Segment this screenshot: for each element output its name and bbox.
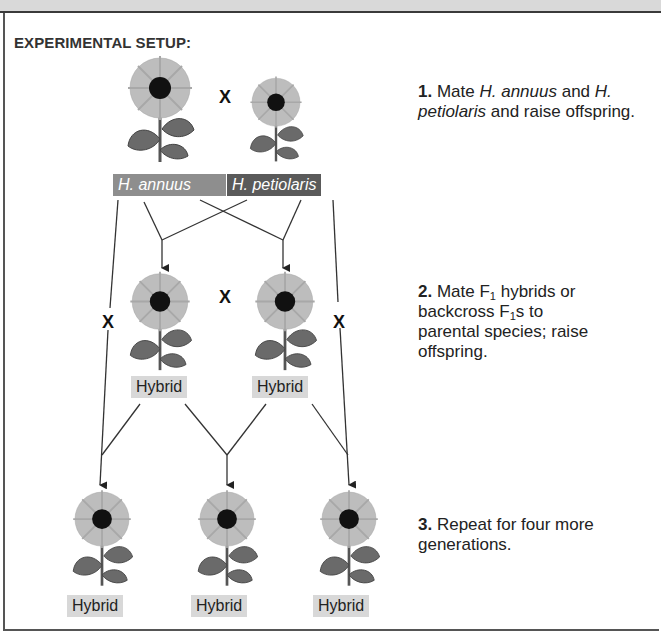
cross-symbol: X (102, 312, 114, 333)
gen-hybrid-label: Hybrid (191, 595, 247, 617)
gen-hybrid-flower-icon (73, 490, 132, 585)
gen-hybrid-flower-icon (198, 490, 257, 585)
gen-hybrid-flower-icon (320, 490, 379, 585)
step-3-text: 3. Repeat for four more generations. (418, 515, 598, 555)
f1-hybrid-flower-icon (130, 272, 191, 370)
f1-hybrid-label: Hybrid (252, 376, 308, 398)
gen-hybrid-label: Hybrid (313, 595, 369, 617)
cross-symbol: X (333, 312, 345, 333)
parent-label-petiolaris: H. petiolaris (227, 174, 321, 196)
h-petiolaris-flower-icon (250, 77, 303, 162)
cross-symbol: X (219, 87, 231, 108)
step-2-text: 2. Mate F1 hybrids or backcross F1s to p… (418, 282, 608, 362)
gen-hybrid-label: Hybrid (67, 595, 123, 617)
cross-symbol: X (219, 287, 231, 308)
parent-label-annuus: H. annuus (113, 174, 226, 196)
f1-hybrid-flower-icon (255, 272, 316, 370)
step-1-text: 1. Mate H. annuus and H. petiolaris and … (418, 82, 648, 122)
f1-hybrid-label: Hybrid (131, 376, 187, 398)
h-annuus-flower-icon (128, 56, 194, 162)
